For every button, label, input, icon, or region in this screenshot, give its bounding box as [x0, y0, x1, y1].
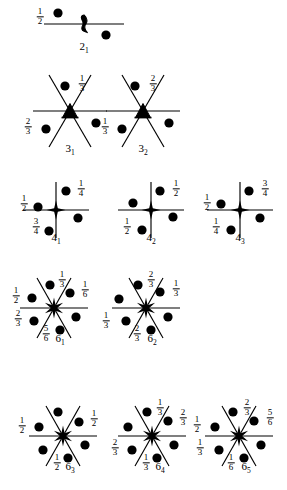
- fraction-denominator: 2: [19, 426, 26, 436]
- fraction-denominator: 2: [54, 463, 61, 473]
- height-fraction-label: 23: [150, 74, 157, 93]
- height-fraction-label: 12: [54, 453, 61, 472]
- center-symbol-square-star: [231, 201, 250, 220]
- fraction-numerator: 3: [262, 179, 269, 188]
- axis-caption-3_2: 32: [138, 142, 147, 157]
- axis-order-subscript: 5: [247, 466, 251, 475]
- fraction-numerator: 1: [59, 270, 66, 279]
- height-fraction-label: 13: [103, 311, 110, 330]
- height-fraction-label: 16: [82, 280, 89, 299]
- fraction-denominator: 3: [102, 127, 109, 137]
- axis-order-subscript: 2: [153, 338, 157, 347]
- height-fraction-label: 12: [19, 416, 26, 435]
- height-fraction-label: 14: [213, 217, 220, 236]
- fraction-numerator: 1: [197, 438, 204, 447]
- height-fraction-label: 23: [244, 398, 251, 417]
- height-fraction-label: 12: [204, 193, 211, 212]
- fraction-denominator: 3: [103, 321, 110, 331]
- axis-order-subscript: 3: [241, 237, 245, 246]
- fraction-numerator: 1: [21, 194, 28, 203]
- height-fraction-label: 56: [267, 408, 274, 427]
- fraction-numerator: 1: [228, 453, 235, 462]
- fraction-denominator: 3: [157, 408, 164, 418]
- axis-caption-6_3: 63: [65, 460, 74, 475]
- fraction-numerator: 1: [82, 280, 89, 289]
- axis-caption-6_5: 65: [241, 460, 250, 475]
- height-fraction-label: 23: [25, 117, 32, 136]
- fraction-numerator: 1: [19, 416, 26, 425]
- height-fraction-label: 12: [13, 286, 20, 305]
- fraction-denominator: 4: [213, 227, 220, 237]
- fraction-denominator: 4: [33, 227, 40, 237]
- fraction-numerator: 2: [112, 438, 119, 447]
- fraction-numerator: 1: [173, 279, 180, 288]
- fraction-denominator: 3: [15, 319, 22, 329]
- axis-order-subscript: 2: [144, 148, 148, 157]
- center-symbol-square-star: [142, 201, 161, 220]
- fraction-numerator: 5: [43, 324, 50, 333]
- axis-caption-3_1: 31: [65, 142, 74, 157]
- height-fraction-label: 34: [33, 217, 40, 236]
- screw-axis-6_5: 2356121316: [184, 391, 287, 481]
- fraction-numerator: 1: [13, 286, 20, 295]
- fraction-numerator: 1: [173, 179, 180, 188]
- fraction-denominator: 4: [262, 189, 269, 199]
- fraction-numerator: 1: [79, 74, 86, 83]
- fraction-numerator: 2: [15, 309, 22, 318]
- fraction-numerator: 2: [134, 324, 141, 333]
- axis-graphic-6_2: [91, 263, 201, 353]
- fraction-numerator: 1: [103, 311, 110, 320]
- fraction-numerator: 1: [54, 453, 61, 462]
- axis-caption-6_2: 62: [147, 332, 156, 347]
- fraction-denominator: 2: [194, 425, 201, 435]
- axis-order-subscript: 1: [61, 338, 65, 347]
- axis-order-subscript: 1: [71, 148, 75, 157]
- height-fraction-label: 13: [59, 270, 66, 289]
- fraction-numerator: 2: [150, 74, 157, 83]
- height-fraction-label: 34: [262, 179, 269, 198]
- fraction-denominator: 2: [204, 203, 211, 213]
- height-fraction-label: 12: [194, 415, 201, 434]
- fraction-denominator: 2: [21, 204, 28, 214]
- height-fraction-label: 12: [21, 194, 28, 213]
- fraction-numerator: 1: [78, 179, 85, 188]
- axis-order-subscript: 2: [152, 237, 156, 246]
- fraction-denominator: 6: [43, 334, 50, 344]
- fraction-numerator: 1: [213, 217, 220, 226]
- fraction-numerator: 1: [37, 7, 44, 16]
- axis-caption-4_3: 43: [235, 231, 244, 246]
- axis-graphic-2_1: [29, 0, 139, 69]
- fraction-numerator: 1: [194, 415, 201, 424]
- height-fraction-label: 14: [78, 179, 85, 198]
- fraction-denominator: 3: [25, 127, 32, 137]
- fraction-numerator: 1: [157, 398, 164, 407]
- fraction-denominator: 6: [228, 463, 235, 473]
- fraction-numerator: 1: [102, 117, 109, 126]
- fraction-numerator: 2: [25, 117, 32, 126]
- fraction-denominator: 3: [173, 289, 180, 299]
- fraction-denominator: 3: [134, 334, 141, 344]
- fraction-numerator: 2: [148, 270, 155, 279]
- fraction-denominator: 4: [78, 189, 85, 199]
- axis-caption-6_1: 61: [55, 332, 64, 347]
- height-fraction-label: 12: [173, 179, 180, 198]
- height-fraction-label: 13: [143, 453, 150, 472]
- fraction-denominator: 3: [197, 448, 204, 458]
- fraction-numerator: 1: [204, 193, 211, 202]
- fraction-denominator: 2: [173, 189, 180, 199]
- height-fraction-label: 23: [15, 309, 22, 328]
- height-fraction-label: 23: [148, 270, 155, 289]
- height-fraction-label: 13: [197, 438, 204, 457]
- axis-caption-6_4: 64: [155, 460, 164, 475]
- fraction-denominator: 3: [143, 463, 150, 473]
- fraction-numerator: 5: [267, 408, 274, 417]
- center-symbol-square-star: [47, 201, 66, 220]
- height-fraction-label: 56: [43, 324, 50, 343]
- height-fraction-label: 23: [112, 438, 119, 457]
- fraction-numerator: 2: [244, 398, 251, 407]
- height-fraction-label: 13: [157, 398, 164, 417]
- screw-axis-2_1: 12: [29, 0, 139, 69]
- fraction-denominator: 6: [82, 290, 89, 300]
- fraction-denominator: 2: [124, 227, 131, 237]
- screw-axes-diagram: 1221132331231332141234411212423412144313…: [0, 0, 287, 490]
